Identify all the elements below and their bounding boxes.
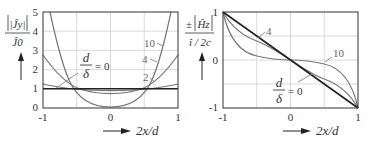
right-ylabel-num: Ĥz <box>196 18 210 30</box>
left-ylabel-num: |Ĵy| <box>10 18 26 30</box>
left-chart: 5 4 3 2 1 0 -1 0 1 2x/d |Ĵy| Ĵ0 10 4 2 d… <box>5 6 181 138</box>
left-label-2: 2 <box>143 71 149 83</box>
right-xlabel: 2x/d <box>316 123 339 138</box>
left-yarrow-head-icon <box>18 52 24 61</box>
right-leaders <box>258 32 332 82</box>
left-ytick-3: 3 <box>33 44 39 56</box>
left-xarrow-head-icon <box>121 128 131 134</box>
right-annot-eq0: = 0 <box>288 85 303 97</box>
right-ytick-neg1: -1 <box>209 101 218 113</box>
right-annot-d: d <box>276 75 283 90</box>
left-xlabel: 2x/d <box>136 123 159 138</box>
right-xtick-neg1: -1 <box>218 111 227 123</box>
left-ytick-5: 5 <box>33 6 39 18</box>
right-ylabel-den: î / 2c <box>189 36 211 48</box>
right-label-4: 4 <box>266 25 272 37</box>
right-ytick-1: 1 <box>213 6 219 18</box>
left-annot-eq0: = 0 <box>95 60 110 72</box>
left-label-4: 4 <box>142 53 148 65</box>
left-annot-delta: δ <box>83 66 90 81</box>
right-label-10: 10 <box>333 47 345 59</box>
left-ytick-4: 4 <box>33 25 39 37</box>
left-ytick-1: 1 <box>33 82 39 94</box>
right-xtick-1: 1 <box>355 111 361 123</box>
right-ylabel-pm: ± <box>186 18 192 30</box>
right-yarrow-head-icon <box>199 52 205 61</box>
left-ylabel-den: Ĵ0 <box>12 36 23 48</box>
figure: 5 4 3 2 1 0 -1 0 1 2x/d |Ĵy| Ĵ0 10 4 2 d… <box>0 0 375 143</box>
left-xtick-1: 1 <box>175 111 181 123</box>
left-ytick-2: 2 <box>33 63 39 75</box>
left-xtick-0: 0 <box>108 111 114 123</box>
right-chart: 1 0 -1 -1 0 1 2x/d ± Ĥz î / 2c 4 10 d δ … <box>185 6 361 138</box>
right-xtick-0: 0 <box>288 111 294 123</box>
right-xarrow-head-icon <box>301 128 311 134</box>
right-ytick-0: 0 <box>213 54 219 66</box>
left-label-10: 10 <box>144 37 156 49</box>
right-annot-delta: δ <box>276 91 283 106</box>
left-xtick-neg1: -1 <box>38 111 47 123</box>
left-annot-d: d <box>83 50 90 65</box>
